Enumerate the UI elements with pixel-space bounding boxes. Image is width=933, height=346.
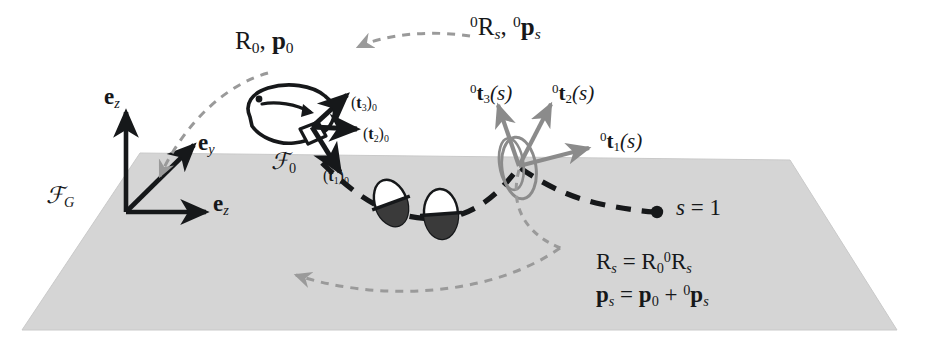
annotation-arrow-to-body-pose (358, 33, 470, 47)
position-composition-equation: ps = p0 + 0ps (596, 283, 709, 308)
relative-pose-label: 0Rs, 0ps (470, 14, 541, 42)
axis-ey-label: ey (198, 131, 215, 156)
section-tangent-2-label: 0t2(s) (552, 82, 594, 105)
endpoint-dot-icon (651, 206, 663, 218)
rotation-composition-equation: Rs = R00Rs (596, 250, 692, 275)
figure-canvas (0, 0, 933, 346)
axis-ez-up-label: ez (104, 85, 120, 110)
eye-dot-icon (256, 96, 263, 103)
body-tangent-1-label: (t1)0 (323, 168, 349, 186)
body-axis-t2-arrow (312, 127, 357, 129)
body-frame-label: ℱ0 (271, 150, 296, 175)
kinematics-figure: R0, p0 0Rs, 0ps 0t3(s) 0t2(s) 0t1(s) (t3… (0, 0, 933, 346)
axis-ez-right-label: ez (213, 192, 229, 217)
ground-plane (22, 153, 897, 330)
body-pose-label: R0, p0 (235, 28, 294, 56)
section-tangent-1-label: 0t1(s) (600, 130, 642, 153)
fish-body-icon (248, 85, 334, 144)
global-frame-label: ℱG (46, 184, 74, 209)
section-tangent-3-label: 0t3(s) (470, 82, 512, 105)
arclength-end-label: s = 1 (676, 196, 721, 219)
body-tangent-3-label: (t3)0 (351, 95, 377, 113)
body-tangent-2-label: (t2)0 (363, 126, 389, 144)
